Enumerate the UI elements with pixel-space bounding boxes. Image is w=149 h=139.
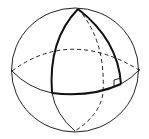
meridian-hidden-dashed: [75, 9, 103, 131]
equator-front-left: [12, 71, 52, 93]
equator-back-dashed: [12, 49, 139, 71]
triangle-base-equator: [52, 84, 121, 94]
triangle-right-side: [78, 9, 121, 84]
triangle-left-side: [52, 9, 78, 93]
equator-right-point: [138, 69, 140, 71]
diagram-canvas: [0, 0, 149, 139]
equator-front-right: [121, 70, 139, 84]
equator-left-point: [11, 70, 13, 72]
sphere-diagram: [0, 0, 149, 139]
meridian-left-lower: [52, 93, 75, 131]
